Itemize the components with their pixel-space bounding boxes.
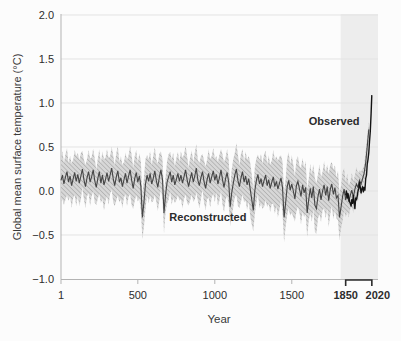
x-tick-label: 1000 [203,289,227,302]
y-tick-label: 0.0 [22,184,54,198]
y-tick-label: 0.5 [22,140,54,154]
x-tick-label: 1500 [280,289,304,302]
x-tick-label: 1850 [333,289,357,302]
x-tick-label: 1 [58,289,64,302]
x-tick-label: 500 [129,289,147,302]
y-tick-label: 1.0 [22,96,54,110]
x-axis-title: Year [169,313,269,325]
y-tick-label: −0.5 [22,228,54,242]
y-tick-label: 2.0 [22,8,54,22]
annotation-observed: Observed [309,115,360,127]
chart-figure: Global mean surface temperature (°C) Yea… [0,0,401,341]
reconstructed-uncertainty-band [61,121,369,243]
y-tick-label: 1.5 [22,52,54,66]
annotation-reconstructed: Reconstructed [169,211,246,223]
era-bracket [346,280,372,286]
x-tick-label: 2020 [366,289,390,302]
y-tick-label: −1.0 [22,272,54,286]
